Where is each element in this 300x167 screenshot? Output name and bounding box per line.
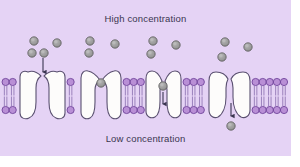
solute-molecule bbox=[111, 40, 119, 48]
solute-molecule bbox=[97, 79, 105, 87]
solute-highlight bbox=[29, 50, 33, 54]
facilitated-diffusion-figure: High concentration Low concentration bbox=[0, 0, 300, 167]
lipid-head bbox=[273, 106, 280, 113]
solute-highlight bbox=[173, 42, 177, 46]
lipid-head bbox=[2, 106, 9, 113]
lipid-head bbox=[197, 106, 204, 113]
lipid-head bbox=[137, 78, 144, 85]
solute-highlight bbox=[41, 50, 45, 54]
solute-molecule bbox=[149, 37, 157, 45]
solute-highlight bbox=[87, 38, 91, 42]
lipid-head bbox=[259, 78, 266, 85]
lipid-head bbox=[67, 78, 74, 85]
solute-highlight bbox=[160, 83, 164, 87]
lipid-head bbox=[252, 78, 259, 85]
lipid-head bbox=[2, 78, 9, 85]
lipid-head bbox=[137, 106, 144, 113]
solute-molecule bbox=[30, 37, 38, 45]
lipid-head bbox=[123, 106, 130, 113]
solute-highlight bbox=[86, 50, 90, 54]
lipid-head bbox=[9, 106, 16, 113]
label-high-concentration: High concentration bbox=[0, 13, 291, 24]
lipid-head bbox=[252, 106, 259, 113]
lipid-head bbox=[280, 106, 287, 113]
solute-molecule bbox=[221, 38, 229, 46]
channel-protein-2[interactable] bbox=[81, 71, 121, 119]
solute-highlight bbox=[150, 38, 154, 42]
lipid-head bbox=[190, 106, 197, 113]
solute-highlight bbox=[31, 38, 35, 42]
solute-highlight bbox=[54, 40, 58, 44]
solute-molecule bbox=[227, 122, 235, 130]
solute-highlight bbox=[148, 51, 152, 55]
solute-molecule bbox=[244, 43, 252, 51]
lipid-head bbox=[183, 78, 190, 85]
solute-molecule bbox=[86, 37, 94, 45]
lipid-head bbox=[266, 106, 273, 113]
lipid-head bbox=[266, 78, 273, 85]
label-low-concentration: Low concentration bbox=[0, 133, 291, 144]
lipid-head bbox=[130, 78, 137, 85]
lipid-head bbox=[9, 78, 16, 85]
lipid-head bbox=[183, 106, 190, 113]
solute-highlight bbox=[112, 41, 116, 45]
solute-highlight bbox=[222, 39, 226, 43]
solute-highlight bbox=[219, 54, 223, 58]
channel-protein-1[interactable] bbox=[20, 71, 65, 119]
solute-molecules-below bbox=[227, 122, 235, 130]
solute-highlight bbox=[98, 80, 102, 84]
lipid-head bbox=[273, 78, 280, 85]
lipid-head bbox=[190, 78, 197, 85]
lipid-head bbox=[123, 78, 130, 85]
channel-protein-4[interactable] bbox=[209, 72, 250, 118]
solute-molecule bbox=[53, 39, 61, 47]
lipid-head bbox=[259, 106, 266, 113]
solute-molecule bbox=[159, 82, 167, 90]
solute-molecule bbox=[85, 49, 93, 57]
lipid-head bbox=[67, 106, 74, 113]
solute-molecule bbox=[40, 49, 48, 57]
lipid-head bbox=[197, 78, 204, 85]
solute-molecules-above bbox=[28, 37, 252, 61]
lipid-head bbox=[130, 106, 137, 113]
solute-highlight bbox=[245, 44, 249, 48]
lipid-head bbox=[280, 78, 287, 85]
solute-highlight bbox=[228, 123, 232, 127]
solute-molecule bbox=[147, 50, 155, 58]
solute-molecule bbox=[218, 53, 226, 61]
solute-molecule bbox=[28, 49, 36, 57]
solute-molecule bbox=[172, 41, 180, 49]
